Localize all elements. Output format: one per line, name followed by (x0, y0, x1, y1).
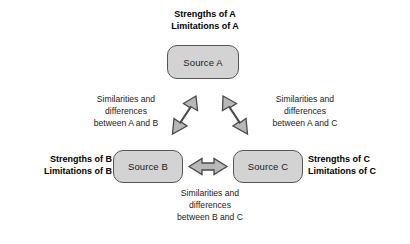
arrow-b-c-icon (189, 159, 227, 175)
strengths-limitations-label-b: Strengths of B Limitations of B (44, 154, 112, 177)
edge-label-b-c: Similarities and differences between B a… (148, 187, 272, 223)
node-source-c-label: Source C (248, 161, 288, 172)
node-source-b[interactable]: Source B (113, 150, 183, 183)
node-source-b-label: Source B (128, 161, 168, 172)
node-source-c[interactable]: Source C (233, 150, 303, 183)
arrow-a-c-icon (223, 96, 248, 134)
strengths-limitations-label-c: Strengths of C Limitations of C (308, 154, 376, 177)
comparison-diagram: Strengths of A Limitations of A Source A… (0, 0, 410, 244)
arrow-a-b-icon (173, 96, 198, 134)
